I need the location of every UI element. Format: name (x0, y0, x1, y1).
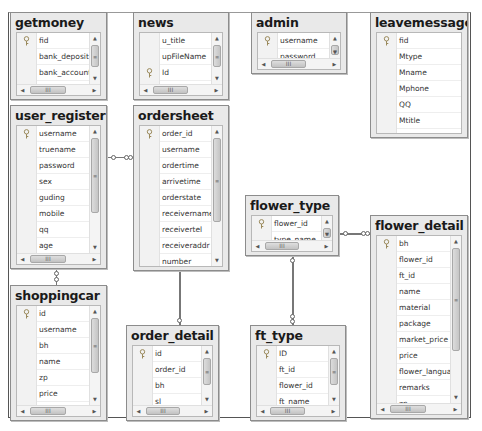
horizontal-scroll-thumb[interactable]: III (271, 60, 306, 68)
scroll-down-arrow-icon[interactable]: ▼ (322, 229, 332, 240)
table-ft-type[interactable]: ft_typeIDft_idflower_idft_name▲≡▼◀III▶ (250, 325, 346, 421)
row-selector[interactable] (257, 346, 277, 362)
row-selector[interactable] (17, 354, 37, 370)
scroll-right-arrow-icon[interactable]: ▶ (450, 404, 461, 414)
vertical-scroll-thumb[interactable]: ≡ (203, 358, 211, 385)
column-row[interactable]: upFileName (140, 49, 211, 65)
row-selector[interactable] (377, 284, 397, 300)
column-row[interactable]: flower_id (257, 378, 328, 394)
column-row[interactable]: u_title (140, 33, 211, 49)
column-row[interactable]: id (17, 306, 89, 322)
row-selector[interactable] (377, 316, 397, 332)
column-row[interactable]: QQ (377, 97, 461, 113)
vertical-scrollbar[interactable]: ▲≡▼ (328, 346, 339, 405)
row-selector[interactable] (377, 113, 397, 129)
column-row[interactable]: bank_account (17, 65, 89, 81)
vertical-scroll-thumb[interactable]: ≡ (330, 358, 338, 385)
row-selector[interactable] (140, 49, 160, 65)
table-admin[interactable]: adminusernamepassword▲≡▼◀III▶ (251, 12, 347, 74)
horizontal-scrollbar[interactable]: ◀III▶ (258, 58, 340, 69)
column-row[interactable]: receivername (140, 206, 211, 222)
horizontal-scrollbar[interactable]: ◀III▶ (17, 253, 100, 264)
horizontal-scrollbar[interactable]: ◀III▶ (17, 84, 100, 95)
table-title[interactable]: news (134, 13, 228, 32)
scroll-right-arrow-icon[interactable]: ▶ (201, 406, 212, 416)
scroll-up-arrow-icon[interactable]: ▲ (90, 33, 100, 44)
horizontal-scrollbar[interactable]: ◀III▶ (133, 405, 212, 416)
row-selector[interactable] (257, 362, 277, 378)
horizontal-scroll-thumb[interactable]: III (265, 242, 299, 250)
column-row[interactable]: username (140, 142, 211, 158)
table-shoppingcar[interactable]: shoppingcaridusernamebhnamezppricesl▲≡▼◀… (10, 285, 107, 421)
scroll-down-arrow-icon[interactable]: ▼ (90, 394, 100, 405)
column-row[interactable]: flower_language (377, 364, 450, 380)
table-news[interactable]: newsu_titleupFileNameIdu_time▲≡▼◀III▶ (133, 12, 229, 100)
horizontal-scroll-thumb[interactable]: III (270, 407, 305, 415)
horizontal-scroll-thumb[interactable]: III (146, 407, 180, 415)
row-selector[interactable] (17, 386, 37, 402)
horizontal-scrollbar[interactable]: ◀III▶ (377, 403, 461, 414)
column-row[interactable]: mobile (17, 206, 89, 222)
vertical-scrollbar[interactable]: ▲≡▼ (89, 126, 100, 253)
scroll-right-arrow-icon[interactable]: ▶ (89, 85, 100, 95)
column-row[interactable]: order_id (133, 362, 201, 378)
row-selector[interactable] (17, 370, 37, 386)
row-selector[interactable] (17, 142, 37, 158)
row-selector[interactable] (133, 362, 153, 378)
scroll-down-arrow-icon[interactable]: ▼ (329, 394, 339, 405)
row-selector[interactable] (140, 190, 160, 206)
vertical-scrollbar[interactable]: ▲≡▼ (329, 33, 340, 58)
column-row[interactable]: market_price (377, 332, 450, 348)
table-title[interactable]: flower_detail (371, 216, 467, 235)
column-row[interactable]: guding (17, 190, 89, 206)
row-selector[interactable] (133, 378, 153, 394)
column-row[interactable]: Mtext (377, 129, 461, 134)
table-getmoney[interactable]: getmoneyfidbank_depositbank_accountpayee… (10, 12, 107, 100)
table-title[interactable]: admin (252, 13, 346, 32)
table-title[interactable]: leavemessage (371, 13, 467, 32)
column-row[interactable]: arrivetime (140, 174, 211, 190)
scroll-down-arrow-icon[interactable]: ▼ (212, 73, 222, 84)
column-row[interactable]: zp (17, 370, 89, 386)
row-selector[interactable] (140, 33, 160, 49)
vertical-scrollbar[interactable]: ▲≡▼ (450, 236, 461, 403)
row-selector[interactable] (257, 378, 277, 394)
vertical-scrollbar[interactable]: ▲≡▼ (321, 216, 332, 240)
scroll-up-arrow-icon[interactable]: ▲ (451, 236, 461, 247)
scroll-down-arrow-icon[interactable]: ▼ (202, 394, 212, 405)
scroll-right-arrow-icon[interactable]: ▶ (328, 406, 339, 416)
vertical-scroll-thumb[interactable]: ≡ (213, 138, 221, 222)
row-selector[interactable] (17, 126, 37, 142)
column-row[interactable]: price (377, 348, 450, 364)
row-selector[interactable] (17, 238, 37, 254)
row-selector[interactable] (377, 380, 397, 396)
row-selector[interactable] (377, 300, 397, 316)
column-row[interactable]: Mtype (377, 49, 461, 65)
column-row[interactable]: ID (257, 346, 328, 362)
column-row[interactable]: Id (140, 65, 211, 81)
column-row[interactable]: age (17, 238, 89, 254)
column-row[interactable]: username (17, 126, 89, 142)
row-selector[interactable] (140, 158, 160, 174)
column-row[interactable]: fid (377, 33, 461, 49)
row-selector[interactable] (258, 33, 278, 49)
relationship-ordersheet-order-detail[interactable] (179, 270, 181, 325)
row-selector[interactable] (377, 332, 397, 348)
vertical-scroll-thumb[interactable]: ≡ (91, 318, 99, 373)
scroll-left-arrow-icon[interactable]: ◀ (252, 241, 263, 251)
table-flower-detail[interactable]: flower_detailbhflower_idft_idnamemateria… (370, 215, 468, 419)
scroll-down-arrow-icon[interactable]: ▼ (330, 47, 340, 58)
row-selector[interactable] (377, 268, 397, 284)
horizontal-scrollbar[interactable]: ◀III▶ (17, 405, 100, 416)
row-selector[interactable] (140, 126, 160, 142)
row-selector[interactable] (377, 97, 397, 113)
scroll-up-arrow-icon[interactable]: ▲ (329, 346, 339, 357)
row-selector[interactable] (377, 49, 397, 65)
row-selector[interactable] (17, 158, 37, 174)
column-row[interactable]: bh (377, 236, 450, 252)
column-row[interactable]: username (17, 322, 89, 338)
vertical-scrollbar[interactable]: ▲≡▼ (201, 346, 212, 405)
table-order-detail[interactable]: order_detailidorder_idbhsl▲≡▼◀III▶ (126, 325, 219, 421)
row-selector[interactable] (140, 222, 160, 238)
column-row[interactable]: remarks (377, 380, 450, 396)
